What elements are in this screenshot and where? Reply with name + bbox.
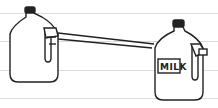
left-jug <box>10 7 58 82</box>
milk-label: MILK <box>160 62 188 72</box>
left-jug-cap <box>25 7 35 13</box>
illustration: MILK <box>0 0 218 108</box>
jugs-drawing: MILK <box>0 0 218 108</box>
right-jug-cap <box>173 20 184 27</box>
right-jug: MILK <box>155 20 207 100</box>
connecting-tube <box>58 33 154 48</box>
